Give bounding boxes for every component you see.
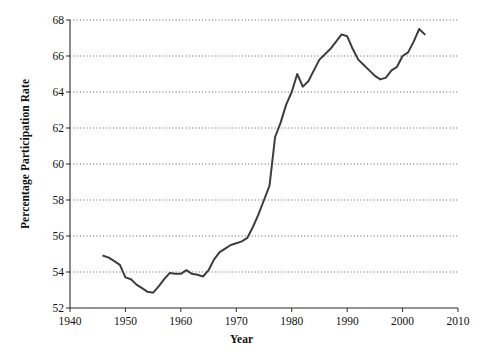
y-axis-tick-label: 58 (38, 194, 64, 206)
y-axis-label-container: Percentage Participation Rate (10, 0, 40, 308)
x-axis-label: Year (0, 333, 483, 345)
x-axis-tick-label: 1970 (225, 315, 248, 327)
x-axis-tick-label: 1980 (280, 315, 303, 327)
x-axis-tick-label: 2000 (391, 315, 414, 327)
y-axis-tick-label: 62 (38, 122, 64, 134)
data-line-participation-rate (103, 29, 424, 293)
y-axis-tick-label: 64 (38, 86, 64, 98)
line-chart-plot (0, 0, 483, 355)
chart-figure: Percentage Participation Rate Year 52545… (0, 0, 483, 355)
x-axis-tick-label: 1940 (59, 315, 82, 327)
y-axis-tick-label: 66 (38, 50, 64, 62)
y-axis-tick-label: 52 (38, 302, 64, 314)
x-axis-tick-label: 1990 (336, 315, 359, 327)
y-axis-tick-label: 68 (38, 14, 64, 26)
y-axis-label: Percentage Participation Rate (19, 79, 31, 229)
x-axis-tick-label: 2010 (447, 315, 470, 327)
gridlines-group (70, 20, 458, 272)
x-axis-tick-label: 1950 (114, 315, 137, 327)
y-axis-tick-label: 54 (38, 266, 64, 278)
y-axis-tick-label: 56 (38, 230, 64, 242)
data-series-group (103, 29, 424, 293)
y-axis-tick-label: 60 (38, 158, 64, 170)
x-axis-tick-label: 1960 (169, 315, 192, 327)
